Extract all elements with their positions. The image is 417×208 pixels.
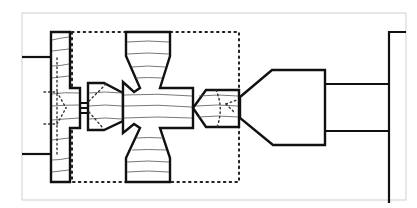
left-rail <box>44 32 80 182</box>
right-plate <box>389 32 406 203</box>
right-rods <box>325 84 389 131</box>
funnel-housing <box>240 70 325 145</box>
left-hex-piece <box>88 83 123 130</box>
diagram-canvas <box>0 0 417 208</box>
left-connector-lines <box>22 57 51 154</box>
right-hex-piece <box>193 90 239 127</box>
central-cross-body <box>123 32 193 182</box>
